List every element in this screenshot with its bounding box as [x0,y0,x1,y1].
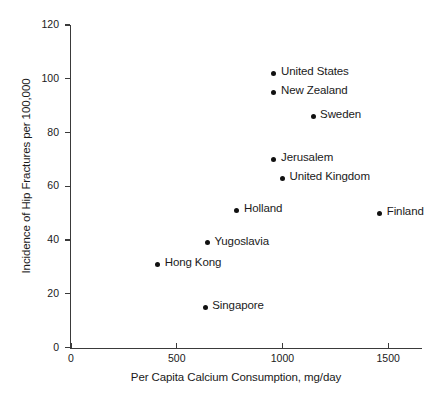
data-point [280,176,285,181]
x-tick-500 [176,343,177,348]
data-point-label: Finland [387,205,424,217]
data-point [377,211,382,216]
data-point [271,90,276,95]
data-point [311,114,316,119]
y-tick-100 [65,78,70,79]
x-tick-0 [70,343,71,348]
x-tick-1000 [282,343,283,348]
data-point [271,71,276,76]
data-point-label: Jerusalem [281,151,333,163]
data-point [271,157,276,162]
y-tick-label-60: 60 [15,179,59,191]
y-tick-label-40: 40 [15,233,59,245]
y-tick-label-20: 20 [15,287,59,299]
y-axis-line [70,25,71,349]
data-point-label: Hong Kong [165,256,222,268]
x-axis-line [70,348,422,349]
data-point-label: Yugoslavia [214,235,269,247]
data-point [203,305,208,310]
y-tick-120 [65,24,70,25]
data-point-label: United Kingdom [289,170,369,182]
data-point-label: New Zealand [281,84,348,96]
y-tick-20 [65,293,70,294]
y-tick-0 [65,347,70,348]
x-tick-label-1000: 1000 [252,352,312,364]
y-tick-label-120: 120 [15,18,59,30]
data-point-label: Holland [244,202,282,214]
y-tick-40 [65,239,70,240]
data-point-label: Sweden [320,108,361,120]
x-tick-label-500: 500 [147,352,207,364]
scatter-chart: Incidence of Hip Fractures per 100,000 P… [0,0,446,402]
data-point-label: United States [281,65,349,77]
data-point [155,262,160,267]
y-tick-60 [65,186,70,187]
data-point [205,240,210,245]
y-tick-label-100: 100 [15,72,59,84]
x-tick-label-1500: 1500 [358,352,418,364]
y-tick-label-0: 0 [15,341,59,353]
x-axis-label: Per Capita Calcium Consumption, mg/day [71,371,401,383]
x-tick-label-0: 0 [41,352,101,364]
data-point-label: Singapore [212,299,264,311]
y-tick-80 [65,132,70,133]
x-tick-1500 [388,343,389,348]
data-point [234,208,239,213]
y-tick-label-80: 80 [15,126,59,138]
